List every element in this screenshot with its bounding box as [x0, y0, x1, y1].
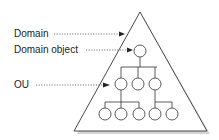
arrow-domain-icon [119, 32, 125, 37]
label-domain-object: Domain object [14, 44, 78, 56]
leaf-node [166, 108, 178, 120]
domain-diagram [0, 0, 219, 140]
label-domain: Domain [14, 28, 48, 40]
leaf-node [133, 108, 145, 120]
leaf-node [149, 108, 161, 120]
domain-object-node [134, 45, 146, 57]
ou-node [149, 78, 161, 90]
leaf-node [99, 108, 111, 120]
ou-node [115, 78, 127, 90]
label-ou: OU [14, 79, 29, 91]
ou-node [132, 78, 144, 90]
leaf-node [115, 108, 127, 120]
